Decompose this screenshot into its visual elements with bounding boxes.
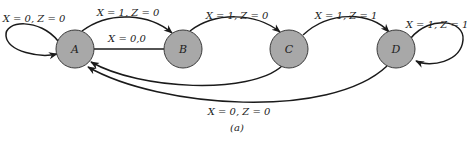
state-label-a: A [70,43,79,56]
state-label-b: B [178,43,187,56]
edge-label-c-d: X = 1, Z = 1 [314,10,378,21]
state-label-c: C [285,43,294,56]
state-node-a: A [56,30,94,68]
edge-label-b-a: X = 0,0 [107,33,146,44]
edge-a-a [6,24,58,55]
edge-label-a-a: X = 0, Z = 0 [2,13,66,24]
edge-label-d-d: X = 1, Z = 1 [405,19,469,30]
figure-caption: (a) [230,122,244,133]
state-label-d: D [391,43,401,56]
state-diagram: A B C D X = 0, Z = 0 X = 1, Z = 0 X = 0,… [0,0,471,141]
edge-label-a-b: X = 1, Z = 0 [96,7,160,18]
state-node-d: D [377,30,415,68]
edge-a-b [82,17,172,33]
state-node-b: B [164,30,202,68]
edge-label-b-c: X = 1, Z = 0 [205,10,269,21]
edge-d-a [88,66,387,102]
edge-label-d-a: X = 0, Z = 0 [207,106,271,117]
state-node-c: C [270,30,308,68]
